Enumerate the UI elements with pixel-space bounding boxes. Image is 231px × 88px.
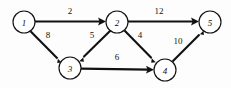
node-label-3: 3 (67, 64, 73, 74)
node-5[interactable]: 5 (199, 11, 221, 33)
node-label-2: 2 (115, 18, 120, 28)
edge-line-2-3 (84, 30, 111, 57)
node-label-1: 1 (22, 18, 27, 28)
edge-line-3-4 (81, 69, 149, 70)
graph-canvas: 2 8 5 4 12 6 10 1 2 3 4 5 (0, 0, 231, 88)
node-4[interactable]: 4 (154, 59, 176, 81)
graph-figure: 2 8 5 4 12 6 10 1 2 3 4 5 (0, 0, 231, 88)
edge-3-4 (81, 66, 154, 74)
edge-weight-1-2: 2 (68, 6, 73, 16)
node-1[interactable]: 1 (13, 11, 35, 33)
edge-weight-2-3: 5 (90, 30, 95, 40)
edge-2-3 (79, 30, 110, 61)
edge-weight-2-5: 12 (155, 6, 164, 16)
edge-line-1-3 (31, 31, 58, 58)
edge-weight-2-4: 4 (138, 30, 143, 40)
node-label-5: 5 (208, 18, 213, 28)
node-2[interactable]: 2 (106, 11, 128, 33)
node-3[interactable]: 3 (59, 57, 81, 79)
edge-weight-4-5: 10 (174, 36, 184, 46)
arrow-head-2-3 (79, 55, 86, 62)
node-label-4: 4 (163, 66, 168, 76)
arrow-head-4-5 (197, 30, 204, 37)
edge-2-5 (128, 18, 199, 26)
arrow-head-2-4 (149, 56, 156, 63)
edge-weight-3-4: 6 (115, 52, 120, 62)
edge-weight-1-3: 8 (46, 30, 51, 40)
edge-1-2 (35, 18, 106, 26)
